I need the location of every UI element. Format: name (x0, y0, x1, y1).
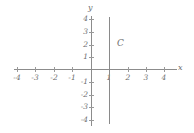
y-tick (89, 57, 94, 58)
x-tick (35, 67, 36, 72)
y-tick-label: -4 (78, 116, 88, 124)
x-tick-label: -2 (47, 74, 61, 82)
y-tick-label: 3 (78, 28, 88, 36)
x-tick (72, 67, 73, 72)
x-tick-label: 2 (121, 74, 135, 82)
x-tick-label: -4 (10, 74, 24, 82)
x-tick-label: -1 (65, 74, 79, 82)
y-tick-label: -2 (78, 91, 88, 99)
line-label-c: C (117, 39, 124, 48)
x-axis (14, 69, 177, 70)
coordinate-plane-figure: -4-3-2-112344321-1-2-3-4 x y C (0, 0, 194, 133)
x-tick-label: -3 (28, 74, 42, 82)
vertical-line-c (109, 17, 110, 124)
y-tick (89, 45, 94, 46)
x-tick (164, 67, 165, 72)
y-tick (89, 82, 94, 83)
y-tick-label: -3 (78, 103, 88, 111)
x-tick-label: 4 (157, 74, 171, 82)
x-axis-label: x (178, 64, 183, 72)
x-tick (128, 67, 129, 72)
x-tick (146, 67, 147, 72)
y-tick-label: 2 (78, 41, 88, 49)
y-tick (89, 95, 94, 96)
y-tick (89, 120, 94, 121)
y-tick-label: 1 (78, 53, 88, 61)
y-axis-label: y (88, 4, 93, 12)
y-tick-label: -1 (78, 78, 88, 86)
x-tick-label: 3 (139, 74, 153, 82)
y-tick-label: 4 (78, 15, 88, 23)
y-tick (89, 107, 94, 108)
x-tick (54, 67, 55, 72)
y-tick (89, 32, 94, 33)
y-tick (89, 19, 94, 20)
x-tick (17, 67, 18, 72)
